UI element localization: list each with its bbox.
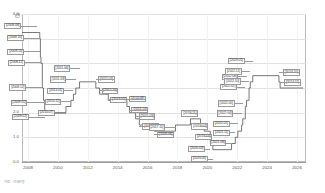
plot-area: [2008.08][2008.10][2008.10][2008.11][200…: [22, 14, 306, 162]
x-axis-tick: 2020: [192, 166, 222, 170]
annotation-leader-line: [28, 117, 45, 118]
rate-change-annotation: [2022.01]: [213, 121, 230, 127]
x-axis-tick: 2024: [252, 166, 282, 170]
rate-change-annotation: [2023.01]: [228, 58, 245, 64]
rate-change-annotation: [2022.05]: [218, 100, 235, 106]
y-axis-tick: 0.0: [0, 160, 19, 164]
annotation-leader-line: [23, 38, 40, 39]
annotation-leader-line: [242, 71, 251, 72]
x-axis-tick: 2010: [43, 166, 73, 170]
rate-change-annotation: [2022.07]: [220, 84, 237, 90]
rate-change-annotation: [2013.05]: [110, 97, 127, 103]
y-axis-tick: 1.0: [0, 135, 19, 139]
annotation-leader-line: [238, 76, 247, 77]
annotation-leader-line: [127, 99, 146, 100]
rate-change-annotation: [2014.08]: [129, 96, 146, 102]
rate-change-annotation: [2022.11]: [225, 68, 242, 74]
annotation-leader-line: [96, 79, 115, 80]
annotation-leader-line: [27, 102, 44, 103]
rate-change-annotation: [2012.07]: [98, 76, 115, 82]
annotation-leader-line: [230, 132, 236, 133]
annotation-leader-line: [204, 136, 212, 137]
annotation-leader-line: [54, 113, 66, 114]
x-axis-tick: 2016: [133, 166, 163, 170]
rate-change-annotation: [2022.10]: [224, 78, 241, 84]
annotation-leader-line: [190, 113, 198, 114]
rate-change-annotation: [2021.11]: [213, 130, 230, 136]
annotation-leader-line: [136, 116, 156, 117]
source-footnote: 자료 : 한국은행: [4, 180, 24, 185]
rate-change-annotation: [2011.03]: [50, 76, 67, 82]
annotation-leader-line: [241, 81, 250, 82]
rate-change-annotation: [2009.02]: [12, 114, 29, 120]
annotation-leader-line: [226, 143, 232, 144]
rate-change-annotation: [2008.11]: [8, 60, 25, 66]
rate-change-annotation: [2019.10]: [195, 134, 212, 140]
annotation-leader-line: [279, 72, 300, 73]
annotation-leader-line: [100, 90, 119, 91]
x-axis-tick: 2026: [282, 166, 312, 170]
x-axis-tick: 2012: [73, 166, 103, 170]
annotation-leader-line: [207, 159, 213, 160]
x-axis-tick: 2014: [103, 166, 133, 170]
rate-change-annotation: [2008.10]: [7, 49, 24, 55]
x-axis-tick: 2008: [13, 166, 43, 170]
annotation-leader-line: [233, 113, 242, 114]
rate-change-annotation: [2012.10]: [102, 88, 119, 94]
y-axis-tick: 6.0: [0, 12, 19, 16]
annotation-leader-line: [129, 110, 148, 111]
annotation-leader-line: [70, 68, 80, 69]
rate-change-annotation: [2017.11]: [149, 124, 166, 130]
annotation-leader-line: [108, 99, 127, 100]
annotation-leader-line: [26, 87, 43, 88]
annotation-leader-line: [205, 149, 211, 150]
annotation-leader-line: [200, 126, 208, 127]
annotation-leader-line: [165, 127, 176, 128]
x-axis-tick: 2022: [222, 166, 252, 170]
rate-step-line: [22, 14, 306, 162]
rate-change-annotation: [2024.10]: [283, 69, 300, 75]
rate-change-annotation: [2008.08]: [4, 23, 21, 29]
rate-change-annotation: [2019.07]: [191, 123, 208, 129]
chart-root: (연 %) 6.05.04.03.02.01.00.0 [2008.08][20…: [0, 0, 325, 193]
annotation-leader-line: [24, 51, 41, 52]
rate-change-annotation: [2021.08]: [210, 140, 227, 146]
rate-change-annotation: [2011.01]: [47, 88, 64, 94]
rate-change-annotation: [2020.03]: [188, 146, 205, 152]
annotation-leader-line: [234, 103, 243, 104]
annotation-leader-line: [64, 90, 74, 91]
rate-change-annotation: [2022.04]: [217, 110, 234, 116]
rate-change-annotation: [2009.01]: [11, 100, 28, 106]
rate-change-annotation: [2018.11]: [181, 110, 198, 116]
annotation-leader-line: [237, 87, 246, 88]
x-axis-tick: 2018: [162, 166, 192, 170]
annotation-leader-line: [61, 101, 71, 102]
rate-change-annotation: [2008.10]: [7, 35, 24, 41]
rate-change-annotation: [2015.03]: [139, 113, 156, 119]
annotation-leader-line: [66, 79, 76, 80]
annotation-leader-line: [229, 123, 238, 124]
rate-change-annotation: [2011.06]: [54, 65, 71, 71]
x-axis-line: [22, 162, 306, 163]
annotation-leader-line: [154, 134, 174, 135]
rate-change-annotation: [2008.12]: [9, 84, 26, 90]
annotation-leader-line: [280, 82, 301, 83]
rate-change-annotation: [2024.11]: [284, 79, 301, 85]
rate-change-annotation: [2010.11]: [45, 99, 62, 105]
annotation-leader-line: [21, 26, 38, 27]
annotation-leader-line: [24, 62, 41, 63]
rate-change-annotation: [2016.06]: [157, 132, 174, 138]
annotation-leader-line: [244, 61, 253, 62]
rate-change-annotation: [2010.07]: [38, 110, 55, 116]
